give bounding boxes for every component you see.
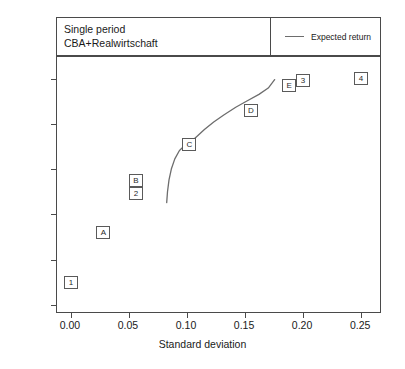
y-axis-tick	[51, 124, 57, 125]
y-axis-tick	[51, 79, 57, 80]
x-axis-tick-label: 0.25	[350, 319, 370, 331]
x-axis-tick-label: 0.10	[176, 319, 196, 331]
chart-title-cell: Single period CBA+Realwirtschaft	[57, 18, 271, 55]
x-axis-tick	[187, 312, 188, 318]
x-axis-tick	[361, 312, 362, 318]
data-point-marker-B: B	[129, 174, 143, 187]
y-axis-tick	[51, 214, 57, 215]
legend-label: Expected return	[311, 32, 371, 42]
plot-area: 1AB2CDE34	[57, 57, 380, 312]
plot-frame: 1AB2CDE34 0.000.020.040.060.080.10	[56, 56, 381, 313]
data-point-marker-1: 1	[64, 276, 78, 289]
x-axis-tick-label: 0.00	[60, 319, 80, 331]
y-axis-tick	[51, 169, 57, 170]
x-axis-tick	[129, 312, 130, 318]
data-point-marker-D: D	[244, 104, 258, 117]
x-axis-tick	[245, 312, 246, 318]
expected-return-curve	[57, 57, 382, 314]
x-axis-tick-label: 0.20	[292, 319, 312, 331]
legend-line-swatch-icon	[285, 36, 304, 37]
x-axis-title: Standard deviation	[0, 338, 405, 350]
data-point-marker-2: 2	[129, 187, 143, 200]
data-point-marker-4: 4	[354, 72, 368, 85]
chart-header-box: Single period CBA+Realwirtschaft Expecte…	[56, 17, 381, 56]
chart-title-line-1: Single period	[64, 22, 270, 36]
data-point-marker-E: E	[282, 79, 296, 92]
y-axis-tick	[51, 260, 57, 261]
data-point-marker-A: A	[96, 226, 110, 239]
chart-root: Single period CBA+Realwirtschaft Expecte…	[0, 0, 405, 369]
chart-legend: Expected return	[271, 18, 380, 55]
chart-title-line-2: CBA+Realwirtschaft	[64, 36, 270, 50]
data-point-marker-C: C	[182, 138, 196, 151]
data-point-marker-3: 3	[296, 74, 310, 87]
y-axis-tick	[51, 305, 57, 306]
x-axis-tick-label: 0.15	[234, 319, 254, 331]
x-axis-tick	[303, 312, 304, 318]
x-axis-tick	[71, 312, 72, 318]
x-axis-tick-label: 0.05	[118, 319, 138, 331]
